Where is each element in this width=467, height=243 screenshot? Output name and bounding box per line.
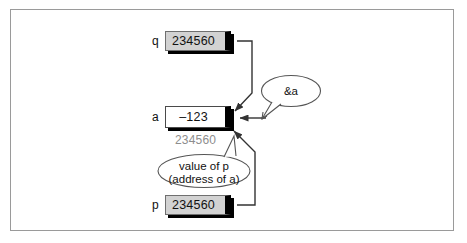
variable-label-p: p: [152, 199, 159, 211]
callout-value-of-p-label: value of p (address of a): [160, 160, 248, 185]
variable-box-a: –123: [165, 106, 231, 128]
address-of-a-note: 234560: [175, 133, 216, 147]
variable-value-q: 234560: [172, 34, 215, 48]
callout-value-of-p-line2: (address of a): [160, 173, 248, 186]
callout-amp-a-label: &a: [262, 85, 320, 98]
connector-q-to-a: [235, 41, 252, 111]
variable-box-p: 234560: [165, 195, 231, 215]
connector-layer: [0, 0, 467, 243]
variable-label-q: q: [152, 35, 159, 47]
figure-root: q 234560 a –123 234560 p 234560 &a value…: [0, 0, 467, 243]
variable-label-a: a: [152, 111, 159, 123]
callout-amp-tail: [262, 102, 281, 119]
callout-value-of-p-line1: value of p: [160, 160, 248, 173]
callout-valp-tail: [224, 136, 236, 157]
variable-box-q: 234560: [165, 31, 231, 51]
variable-value-p: 234560: [172, 198, 215, 212]
variable-value-a: –123: [179, 110, 208, 124]
